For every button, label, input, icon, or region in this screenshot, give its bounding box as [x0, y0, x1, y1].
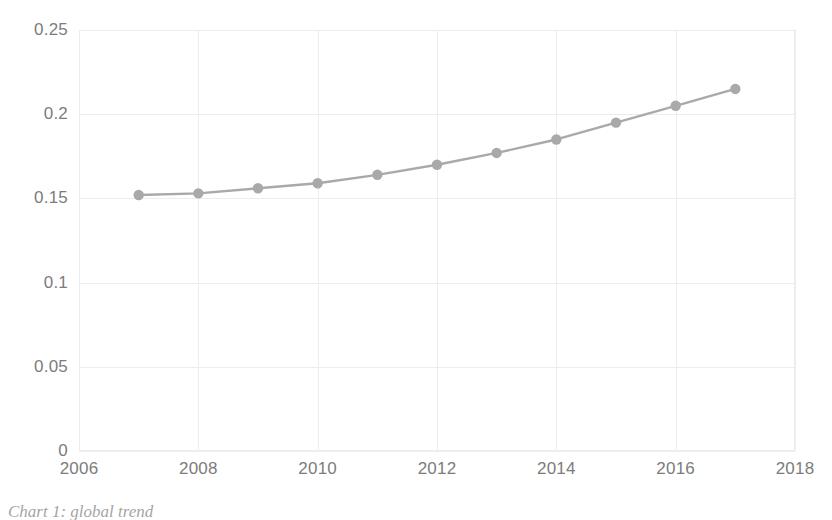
x-axis-tick-label: 2012: [392, 459, 482, 479]
figure-caption: Chart 1: global trend: [8, 503, 508, 520]
y-axis-tick-label: 0.1: [4, 273, 68, 293]
x-axis-tick-label: 2016: [631, 459, 721, 479]
data-point-marker: 2010: 0.159: [312, 178, 322, 188]
y-axis-tick-label: 0.2: [4, 104, 68, 124]
data-point-marker: 2011: 0.164: [372, 170, 382, 180]
y-axis-tick-label: 0.15: [4, 188, 68, 208]
x-axis-tick-label: 2014: [511, 459, 601, 479]
data-point-marker: 2015: 0.195: [611, 117, 621, 127]
data-point-marker: 2013: 0.177: [491, 148, 501, 158]
data-point-marker: 2016: 0.205: [670, 101, 680, 111]
x-axis: 2006200820102012201420162018: [79, 459, 795, 483]
data-point-marker: 2009: 0.156: [253, 183, 263, 193]
x-axis-tick-label: 2006: [34, 459, 124, 479]
gridline-horizontal: [79, 451, 795, 452]
x-axis-tick-label: 2008: [153, 459, 243, 479]
data-point-marker: 2012: 0.17: [432, 160, 442, 170]
x-axis-tick-label: 2018: [750, 459, 832, 479]
plot-area: 2007: 0.1522008: 0.1532009: 0.1562010: 0…: [79, 30, 795, 451]
x-axis-tick-label: 2010: [273, 459, 363, 479]
data-point-marker: 2014: 0.185: [551, 134, 561, 144]
y-axis-tick-label: 0: [4, 441, 68, 461]
data-point-marker: 2017: 0.215: [730, 84, 740, 94]
y-axis-tick-label: 0.05: [4, 357, 68, 377]
data-point-marker: 2008: 0.153: [193, 188, 203, 198]
data-point-marker: 2007: 0.152: [133, 190, 143, 200]
series-line: [139, 89, 736, 195]
chart-figure: 00.050.10.150.20.25 2007: 0.1522008: 0.1…: [0, 0, 832, 520]
y-axis-tick-label: 0.25: [4, 20, 68, 40]
y-axis: 00.050.10.150.20.25: [0, 30, 68, 451]
gridline-vertical: [795, 30, 796, 451]
line-series: 2007: 0.1522008: 0.1532009: 0.1562010: 0…: [79, 30, 795, 451]
figure-caption-text: Chart 1: global trend: [8, 503, 508, 520]
